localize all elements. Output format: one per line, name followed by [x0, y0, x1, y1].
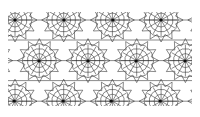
rosette-lattice	[8, 12, 192, 106]
tiling-pattern	[8, 12, 192, 106]
